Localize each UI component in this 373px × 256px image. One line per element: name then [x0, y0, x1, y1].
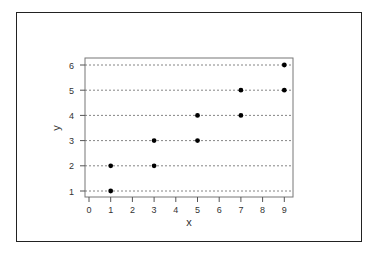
data-point — [195, 113, 200, 118]
y-tick-label: 5 — [69, 86, 74, 96]
data-point — [282, 63, 287, 68]
data-point — [282, 88, 287, 93]
x-tick-label: 8 — [260, 205, 265, 215]
data-point — [152, 163, 157, 168]
y-axis: 123456 — [69, 61, 85, 197]
x-tick-label: 2 — [130, 205, 135, 215]
x-tick-label: 7 — [238, 205, 243, 215]
plot-area — [85, 58, 293, 197]
x-tick-label: 9 — [282, 205, 287, 215]
x-tick-label: 3 — [152, 205, 157, 215]
data-point — [239, 88, 244, 93]
y-tick-label: 2 — [69, 161, 74, 171]
x-tick-label: 6 — [217, 205, 222, 215]
data-point — [108, 163, 113, 168]
y-tick-label: 3 — [69, 136, 74, 146]
x-tick-label: 4 — [173, 205, 178, 215]
y-tick-label: 1 — [69, 187, 74, 197]
x-axis: 0123456789 — [86, 197, 286, 215]
x-tick-label: 0 — [86, 205, 91, 215]
x-axis-label: x — [186, 216, 192, 228]
scatter-plot: 0123456789 123456 x y — [0, 0, 373, 256]
x-tick-label: 1 — [108, 205, 113, 215]
grid-lines — [85, 65, 293, 191]
data-point — [195, 138, 200, 143]
data-points — [108, 63, 286, 194]
data-point — [108, 189, 113, 194]
y-tick-label: 4 — [69, 111, 74, 121]
x-tick-label: 5 — [195, 205, 200, 215]
data-point — [152, 138, 157, 143]
data-point — [239, 113, 244, 118]
y-tick-label: 6 — [69, 61, 74, 71]
y-axis-label: y — [50, 125, 62, 131]
